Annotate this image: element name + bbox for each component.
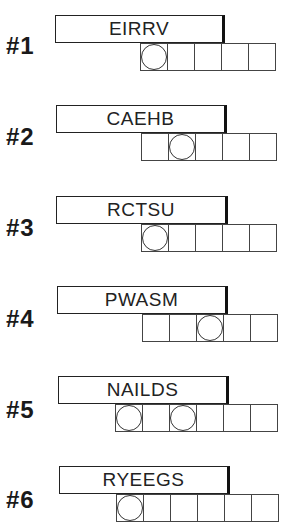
answer-box[interactable]: [251, 494, 279, 522]
puzzle-6: #6 RYEEGS: [0, 440, 299, 520]
answer-box-circled[interactable]: [116, 494, 144, 522]
puzzle-2: #2 CAEHB: [0, 90, 299, 170]
puzzle-number: #4: [6, 305, 35, 333]
circle-marker-icon: [141, 44, 167, 70]
puzzle-number: #5: [6, 396, 35, 424]
answer-box[interactable]: [248, 43, 276, 71]
scrambled-letters: NAILDS: [58, 376, 229, 404]
answer-box[interactable]: [143, 494, 171, 522]
answer-boxes: [141, 224, 277, 252]
answer-box-circled[interactable]: [168, 133, 196, 161]
circle-marker-icon: [170, 405, 196, 431]
answer-box[interactable]: [250, 404, 278, 432]
answer-box[interactable]: [142, 314, 170, 342]
answer-box[interactable]: [167, 43, 195, 71]
answer-box[interactable]: [169, 314, 197, 342]
scrambled-letters: EIRRV: [55, 15, 225, 43]
answer-boxes: [140, 43, 276, 71]
answer-box-circled[interactable]: [169, 404, 197, 432]
circle-marker-icon: [169, 134, 195, 160]
puzzle-1: #1 EIRRV: [0, 0, 299, 80]
puzzle-4: #4 PWASM: [0, 270, 299, 350]
answer-box[interactable]: [196, 404, 224, 432]
puzzle-number: #2: [6, 123, 35, 151]
puzzle-number: #6: [6, 486, 35, 514]
puzzle-3: #3 RCTSU: [0, 180, 299, 260]
answer-box[interactable]: [195, 224, 223, 252]
puzzle-number: #3: [6, 214, 35, 242]
answer-box[interactable]: [195, 133, 223, 161]
answer-box-circled[interactable]: [141, 224, 169, 252]
answer-boxes: [141, 133, 277, 161]
scrambled-letters: PWASM: [57, 286, 228, 314]
circle-marker-icon: [116, 405, 142, 431]
answer-box-circled[interactable]: [115, 404, 143, 432]
scrambled-letters: RCTSU: [56, 196, 228, 224]
answer-box[interactable]: [222, 133, 250, 161]
puzzle-number: #1: [6, 32, 35, 60]
scrambled-letters: CAEHB: [56, 105, 227, 133]
answer-boxes: [116, 494, 279, 522]
answer-box[interactable]: [141, 133, 169, 161]
answer-box[interactable]: [142, 404, 170, 432]
answer-box[interactable]: [222, 224, 250, 252]
answer-box[interactable]: [221, 43, 249, 71]
answer-box[interactable]: [223, 314, 251, 342]
circle-marker-icon: [142, 225, 168, 251]
answer-box-circled[interactable]: [140, 43, 168, 71]
answer-boxes: [115, 404, 278, 432]
answer-box[interactable]: [250, 314, 278, 342]
answer-box[interactable]: [249, 224, 277, 252]
answer-box[interactable]: [249, 133, 277, 161]
circle-marker-icon: [117, 495, 143, 521]
answer-box[interactable]: [224, 494, 252, 522]
circle-marker-icon: [197, 315, 223, 341]
puzzle-5: #5 NAILDS: [0, 360, 299, 440]
answer-box[interactable]: [194, 43, 222, 71]
scrambled-letters: RYEEGS: [59, 466, 230, 494]
answer-box-circled[interactable]: [196, 314, 224, 342]
answer-boxes: [142, 314, 278, 342]
answer-box[interactable]: [170, 494, 198, 522]
answer-box[interactable]: [168, 224, 196, 252]
answer-box[interactable]: [197, 494, 225, 522]
answer-box[interactable]: [223, 404, 251, 432]
